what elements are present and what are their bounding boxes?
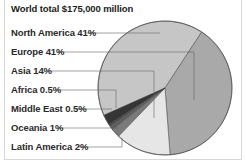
label-middle-east: Middle East 0.5%	[11, 103, 86, 114]
pie-chart: World total $175,000 million North Ameri…	[0, 0, 246, 163]
chart-title: World total $175,000 million	[11, 3, 133, 14]
label-oceania: Oceania 1%	[11, 122, 63, 133]
label-latin-america: Latin America 2%	[11, 141, 88, 152]
label-europe: Europe 41%	[11, 46, 64, 57]
label-north-america: North America 41%	[11, 27, 96, 38]
label-africa: Africa 0.5%	[11, 84, 61, 95]
label-asia: Asia 14%	[11, 65, 52, 76]
pie-svg	[0, 0, 246, 163]
